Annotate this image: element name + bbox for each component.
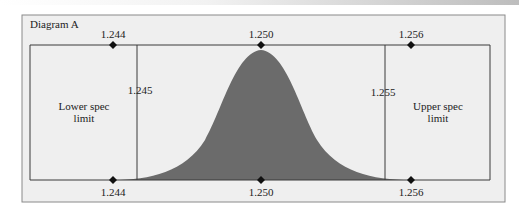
bottom-label-1244: 1.244: [101, 186, 126, 198]
upper-spec-label-line2: limit: [428, 112, 449, 124]
bottom-label-1256: 1.256: [399, 186, 424, 198]
diagram-canvas: Diagram A 1.244 1.250 1.256 1.244 1.250 …: [0, 0, 519, 215]
top-label-1256: 1.256: [399, 28, 424, 40]
lower-spec-value: 1.245: [128, 84, 153, 96]
bottom-label-1250: 1.250: [249, 186, 274, 198]
top-label-1244: 1.244: [101, 28, 126, 40]
upper-spec-label-line1: Upper spec: [413, 100, 463, 112]
top-label-1250: 1.250: [249, 28, 274, 40]
lower-spec-label-line2: limit: [74, 112, 95, 124]
upper-spec-value: 1.255: [371, 86, 396, 98]
lower-spec-label-line1: Lower spec: [58, 100, 109, 112]
diagram-title: Diagram A: [30, 18, 79, 30]
